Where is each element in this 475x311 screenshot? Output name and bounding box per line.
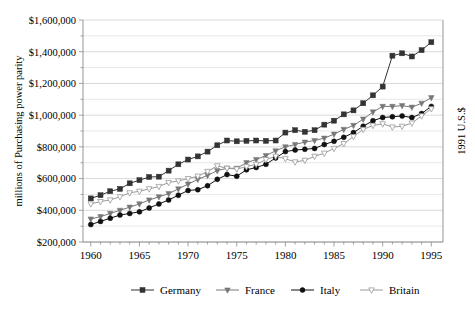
y-tick-label: $400,000 — [37, 205, 76, 216]
data-point-italy — [117, 213, 122, 218]
data-point-germany — [127, 181, 132, 186]
x-tick-label: 1985 — [323, 249, 346, 261]
data-point-britain — [351, 134, 357, 139]
data-point-germany — [254, 138, 259, 143]
data-point-germany — [166, 168, 171, 173]
data-point-germany — [147, 174, 152, 179]
data-point-germany — [302, 129, 307, 134]
y-tick-label: $1,600,000 — [29, 15, 76, 26]
y-tick-label: $1,000,000 — [29, 110, 76, 121]
data-point-italy — [400, 113, 405, 118]
data-point-italy — [195, 187, 200, 192]
legend-marker-italy — [300, 288, 305, 293]
data-point-germany — [108, 189, 113, 194]
legend-marker-germany — [140, 288, 145, 293]
legend-marker-britain — [369, 288, 375, 293]
data-point-italy — [205, 183, 210, 188]
data-point-italy — [234, 174, 239, 179]
chart-figure: $200,000$400,000$600,000$800,000$1,000,0… — [0, 0, 475, 311]
data-point-britain — [390, 125, 396, 130]
data-point-germany — [293, 128, 298, 133]
data-point-germany — [361, 101, 366, 106]
data-point-italy — [225, 172, 230, 177]
x-tick-label: 1965 — [128, 249, 151, 261]
data-point-france — [409, 105, 415, 110]
data-point-germany — [351, 108, 356, 113]
data-point-italy — [370, 118, 375, 123]
data-point-germany — [225, 138, 230, 143]
data-point-britain — [429, 107, 435, 112]
data-point-germany — [244, 138, 249, 143]
data-point-germany — [273, 138, 278, 143]
data-point-italy — [390, 114, 395, 119]
data-point-germany — [370, 93, 375, 98]
data-point-germany — [137, 178, 142, 183]
data-point-germany — [429, 40, 434, 45]
data-point-italy — [302, 147, 307, 152]
data-point-germany — [98, 193, 103, 198]
x-tick-label: 1990 — [372, 249, 395, 261]
data-point-germany — [312, 128, 317, 133]
data-point-germany — [234, 139, 239, 144]
x-tick-label: 1960 — [80, 249, 103, 261]
data-point-germany — [205, 149, 210, 154]
data-point-italy — [283, 149, 288, 154]
data-point-france — [390, 104, 396, 109]
data-point-italy — [322, 142, 327, 147]
data-point-italy — [98, 219, 103, 224]
data-point-france — [360, 117, 366, 122]
data-point-britain — [360, 127, 366, 132]
y-tick-label: $1,400,000 — [29, 47, 76, 58]
data-point-germany — [332, 118, 337, 123]
data-point-britain — [88, 202, 94, 207]
data-point-italy — [186, 188, 191, 193]
y-tick-label: $600,000 — [37, 173, 76, 184]
legend-label-italy: Italy — [320, 284, 341, 296]
y-axis-title: millions of Purchasing power parity — [13, 55, 24, 207]
data-point-germany — [215, 143, 220, 148]
data-point-italy — [380, 115, 385, 120]
data-point-italy — [409, 115, 414, 120]
data-point-italy — [312, 146, 317, 151]
data-point-germany — [88, 196, 93, 201]
data-point-germany — [156, 174, 161, 179]
data-point-italy — [341, 135, 346, 140]
legend-label-france: France — [245, 284, 275, 296]
x-tick-label: 1995 — [420, 249, 443, 261]
data-point-italy — [147, 205, 152, 210]
data-point-britain — [419, 114, 425, 119]
data-point-italy — [332, 139, 337, 144]
data-point-france — [370, 110, 376, 115]
data-point-germany — [341, 112, 346, 117]
data-point-britain — [234, 167, 240, 172]
y-axis-title-right: 1991 U.S.$ — [456, 107, 467, 155]
data-point-germany — [176, 162, 181, 167]
data-point-italy — [293, 148, 298, 153]
data-point-germany — [400, 51, 405, 56]
data-point-italy — [137, 209, 142, 214]
data-point-italy — [166, 197, 171, 202]
data-point-germany — [186, 157, 191, 162]
x-tick-label: 1980 — [274, 249, 297, 261]
y-tick-label: $200,000 — [37, 237, 76, 248]
line-chart-svg: $200,000$400,000$600,000$800,000$1,000,0… — [0, 0, 475, 311]
data-point-germany — [195, 154, 200, 159]
data-point-italy — [156, 201, 161, 206]
x-tick-label: 1970 — [177, 249, 200, 261]
legend-label-germany: Germany — [160, 284, 201, 296]
data-point-france — [88, 217, 94, 222]
data-point-germany — [409, 54, 414, 59]
series-line-germany — [91, 42, 432, 198]
legend-marker-france — [225, 288, 231, 293]
data-point-italy — [176, 193, 181, 198]
y-tick-label: $1,200,000 — [29, 78, 76, 89]
data-point-italy — [108, 216, 113, 221]
series-line-france — [91, 98, 432, 219]
y-tick-label: $800,000 — [37, 142, 76, 153]
data-point-germany — [283, 130, 288, 135]
data-point-germany — [263, 138, 268, 143]
data-point-germany — [117, 186, 122, 191]
x-tick-label: 1975 — [226, 249, 249, 261]
data-point-italy — [127, 211, 132, 216]
legend-label-britain: Britain — [389, 284, 420, 296]
